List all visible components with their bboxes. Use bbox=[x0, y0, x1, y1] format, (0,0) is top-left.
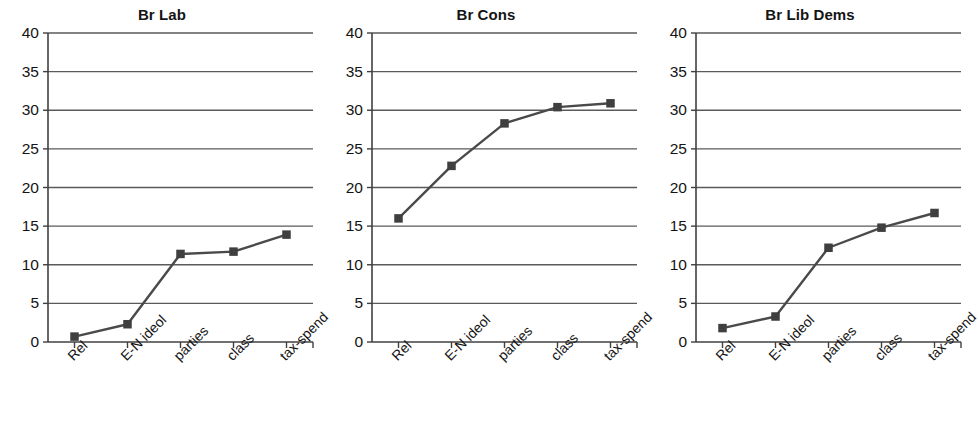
y-axis-tick-label: 0 bbox=[333, 334, 363, 349]
y-axis-tick-label: 40 bbox=[657, 25, 687, 40]
y-axis-tick-label: 20 bbox=[333, 180, 363, 195]
y-axis-tick-label: 15 bbox=[9, 218, 39, 233]
y-axis-tick-label: 35 bbox=[333, 64, 363, 79]
data-point-marker bbox=[930, 209, 939, 218]
y-axis-tick-label: 25 bbox=[333, 141, 363, 156]
y-axis-tick-label: 5 bbox=[657, 295, 687, 310]
data-point-marker bbox=[447, 162, 456, 171]
y-axis-tick-label: 15 bbox=[657, 218, 687, 233]
y-axis-tick-label: 30 bbox=[657, 102, 687, 117]
y-axis-tick-label: 25 bbox=[9, 141, 39, 156]
data-point-marker bbox=[877, 223, 886, 232]
data-point-marker bbox=[606, 99, 615, 108]
y-axis-tick-label: 35 bbox=[657, 64, 687, 79]
y-axis-tick-label: 5 bbox=[333, 295, 363, 310]
data-point-marker bbox=[824, 244, 833, 253]
y-axis-tick-label: 35 bbox=[9, 64, 39, 79]
data-point-marker bbox=[771, 312, 780, 321]
y-axis-tick-label: 30 bbox=[9, 102, 39, 117]
plot-area bbox=[0, 0, 324, 441]
y-axis-tick-label: 10 bbox=[333, 257, 363, 272]
chart-panel: Br Lib Dems0510152025303540RelE-N ideolp… bbox=[648, 0, 972, 441]
y-axis-tick-label: 10 bbox=[657, 257, 687, 272]
y-axis-tick-label: 15 bbox=[333, 218, 363, 233]
y-axis-tick-label: 30 bbox=[333, 102, 363, 117]
data-point-marker bbox=[123, 320, 132, 329]
data-point-marker bbox=[229, 247, 238, 256]
y-axis-tick-label: 25 bbox=[657, 141, 687, 156]
y-axis-tick-label: 40 bbox=[9, 25, 39, 40]
y-axis-tick-label: 40 bbox=[333, 25, 363, 40]
chart-panel: Br Cons0510152025303540RelE-N ideolparti… bbox=[324, 0, 648, 441]
plot-area bbox=[648, 0, 972, 441]
y-axis-tick-label: 0 bbox=[9, 334, 39, 349]
data-point-marker bbox=[176, 250, 185, 259]
y-axis-tick-label: 0 bbox=[657, 334, 687, 349]
data-point-marker bbox=[394, 214, 403, 223]
chart-panel: Br Lab0510152025303540RelE-N ideolpartie… bbox=[0, 0, 324, 441]
y-axis-tick-label: 20 bbox=[657, 180, 687, 195]
y-axis-tick-label: 20 bbox=[9, 180, 39, 195]
data-series-line bbox=[723, 213, 935, 328]
y-axis-tick-label: 5 bbox=[9, 295, 39, 310]
data-point-marker bbox=[553, 103, 562, 112]
plot-area bbox=[324, 0, 648, 441]
data-point-marker bbox=[718, 324, 727, 333]
data-point-marker bbox=[500, 119, 509, 128]
data-point-marker bbox=[282, 230, 291, 239]
y-axis-tick-label: 10 bbox=[9, 257, 39, 272]
